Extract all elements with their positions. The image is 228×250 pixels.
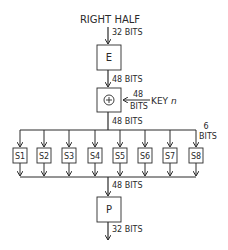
expansion-label: E (106, 52, 112, 63)
des-f-function-diagram: RIGHT HALF 32 BITS E 48 BITS 48 BITS KEY… (0, 0, 228, 250)
edge-label-e-bits: 48 BITS (112, 75, 143, 84)
edge-label-input-bits: 32 BITS (112, 28, 143, 37)
edge-label-xor-bits: 48 BITS (112, 117, 143, 126)
svg-text:S2: S2 (39, 152, 49, 161)
sbox-1: S1 (13, 130, 27, 176)
svg-text:S3: S3 (64, 152, 74, 161)
right-half-label: RIGHT HALF (80, 14, 140, 25)
sbox-width-bottom: BITS (199, 132, 217, 141)
sbox-3: S3 (62, 130, 76, 176)
svg-text:S5: S5 (115, 152, 125, 161)
svg-text:S1: S1 (15, 152, 25, 161)
sbox-4: S4 (88, 130, 102, 176)
sbox-width-top: 6 (203, 122, 208, 131)
sbox-2: S2 (37, 130, 51, 176)
svg-text:S7: S7 (165, 152, 175, 161)
sbox-row: S1 S2 S3 S4 S5 (13, 130, 203, 176)
sbox-5: S5 (113, 130, 127, 176)
sbox-6: S6 (138, 130, 152, 176)
key-width-bottom: BITS (130, 102, 148, 111)
svg-text:S8: S8 (191, 152, 201, 161)
edge-label-sbox-bits: 48 BITS (112, 181, 143, 190)
svg-text:S4: S4 (90, 152, 100, 161)
sbox-7: S7 (163, 130, 177, 176)
key-width-top: 48 (133, 90, 143, 99)
permutation-label: P (106, 204, 112, 215)
key-label: KEY n (151, 96, 177, 106)
edge-label-output-bits: 32 BITS (112, 225, 143, 234)
svg-text:S6: S6 (140, 152, 150, 161)
